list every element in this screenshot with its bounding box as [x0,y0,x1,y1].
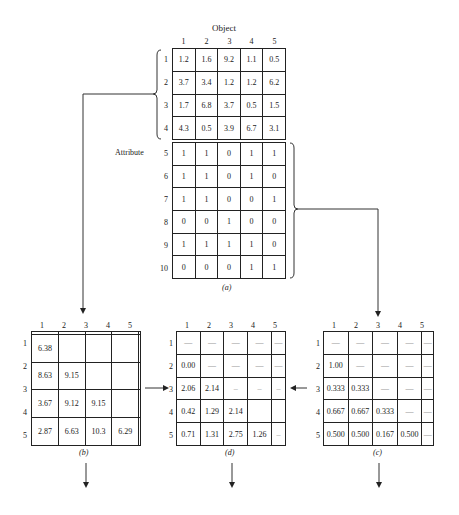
row-label: 2 [13,362,27,371]
cell: 1 [195,233,218,256]
cell: 1 [195,143,218,166]
cell: 0.00 [177,354,201,377]
cell: 0 [240,188,263,211]
cell: 0 [195,256,218,279]
row-label: 5 [13,431,27,440]
cell: — [397,354,422,377]
cell: 1 [173,233,196,256]
row-label: 1 [13,339,27,348]
row-label: 5 [306,431,320,440]
cell: 0 [173,256,196,279]
arrow-numeric-to-b [83,94,153,311]
cell: — [397,377,422,400]
cell: – [271,423,285,446]
col-label: 3 [75,321,97,330]
col-label: 1 [172,37,195,46]
col-label: 2 [53,321,75,330]
table-row: 8.63 9.15 [32,362,141,390]
table-row: 1.00 — — — — [324,354,434,377]
cell: 1.26 [248,423,272,446]
cell: — [422,377,434,400]
cell: 9.15 [85,390,112,418]
cell: 1.2 [173,49,196,72]
cell: 3.1 [263,117,286,140]
cell: 6.63 [58,418,85,446]
cell: 6.8 [195,94,218,117]
cell [139,418,141,446]
cell: — [200,354,224,377]
cell: 1 [240,256,263,279]
cell: 0.5 [195,117,218,140]
cell: — [397,400,422,423]
cell: 1.29 [200,400,224,423]
caption-c: (c) [373,448,382,457]
col-label: 4 [389,321,411,330]
table-row: 0.667 0.667 0.333 — — [324,400,434,423]
cell: 0.5 [240,94,263,117]
col-label: 1 [323,321,345,330]
col-label: 2 [195,37,218,46]
cell [139,390,141,418]
row-label: 3 [154,101,168,110]
cell: 0.5 [263,49,286,72]
cell: 2.14 [200,377,224,400]
cell: 9.15 [58,362,85,390]
cell: 0.500 [348,423,373,446]
cell: 0.500 [324,423,349,446]
row-label: 1 [306,339,320,348]
cell: 3.7 [218,94,241,117]
cell: 0 [195,210,218,233]
cell: 1.2 [218,71,241,94]
cell: 3.9 [218,117,241,140]
table-row: 1 1 0 1 0 [173,165,286,188]
row-label: 1 [159,339,173,348]
row-label: 9 [154,241,168,250]
col-label: 4 [97,321,119,330]
table-row: 3.7 3.4 1.2 1.2 6.2 [173,71,286,94]
cell: — [271,332,285,355]
cell: — [200,332,224,355]
cell: 1 [218,210,241,233]
table-row: — — — — — [324,332,434,355]
row-label: 1 [154,55,168,64]
row-label: 5 [159,431,173,440]
table-row: 6.38 [32,334,141,362]
cell: 1 [173,165,196,188]
col-label: 2 [198,321,220,330]
table-row: 3.67 9.12 9.15 [32,390,141,418]
row-label: 4 [154,124,168,133]
cell: 4.3 [173,117,196,140]
table-row: 2.87 6.63 10.3 6.29 [32,418,141,446]
col-label: 3 [218,37,241,46]
cell: — [248,332,272,355]
cell: 1 [263,143,286,166]
table-row: 1 1 0 0 1 [173,188,286,211]
cell: 8.63 [32,362,59,390]
cell: — [348,354,373,377]
cell: 0 [263,233,286,256]
cell: 0 [218,188,241,211]
cell: 1.00 [324,354,349,377]
cell: 1.6 [195,49,218,72]
cell: — [422,400,434,423]
object-header: Object [212,23,236,33]
cell: 1 [263,256,286,279]
cell: 9.2 [218,49,241,72]
cell [85,334,112,362]
cell: 1 [173,188,196,211]
row-label: 2 [159,362,173,371]
cell: 3.67 [32,390,59,418]
cell: 0 [218,256,241,279]
cell: — [348,332,373,355]
row-label: 8 [154,218,168,227]
table-row: 0.333 0.333 — — — [324,377,434,400]
cell: 0.667 [324,400,349,423]
table-row: 0.500 0.500 0.167 0.500 — [324,423,434,446]
cell: 1 [218,233,241,256]
table-row: 1.2 1.6 9.2 1.1 0.5 [173,49,286,72]
col-label: 3 [220,321,242,330]
table-row: 0.42 1.29 2.14 [177,400,286,423]
cell [112,362,139,390]
row-label: 4 [13,408,27,417]
table-row: 2.06 2.14 – – – [177,377,286,400]
